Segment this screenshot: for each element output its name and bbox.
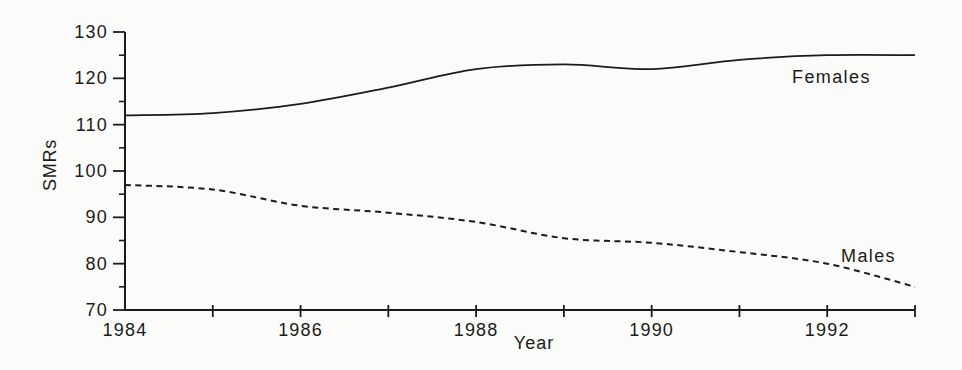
series-label-males: Males	[841, 246, 896, 267]
y-axis-title: SMRs	[40, 139, 61, 191]
x-tick-label: 1992	[805, 320, 850, 340]
males-line	[125, 185, 915, 287]
y-tick-label: 80	[86, 254, 108, 274]
y-tick-label: 120	[74, 68, 108, 88]
x-tick-label: 1988	[454, 320, 499, 340]
y-tick-label: 110	[76, 115, 108, 135]
y-tick-label: 130	[74, 22, 108, 42]
smr-line-chart-figure: 70809010011012013019841986198819901992 S…	[0, 0, 962, 370]
chart-canvas: 70809010011012013019841986198819901992	[0, 0, 962, 370]
x-tick-label: 1984	[103, 320, 148, 340]
series-label-females: Females	[792, 67, 871, 88]
x-tick-label: 1990	[629, 320, 674, 340]
y-tick-label: 100	[74, 161, 108, 181]
x-axis-title: Year	[514, 333, 554, 354]
y-tick-label: 90	[86, 207, 108, 227]
y-tick-label: 70	[86, 300, 108, 320]
x-tick-label: 1986	[278, 320, 323, 340]
